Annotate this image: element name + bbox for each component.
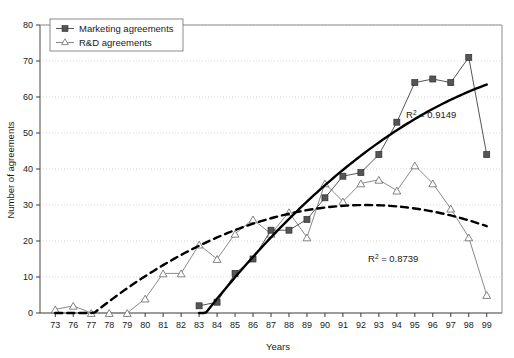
x-tick-label: 98 (464, 320, 474, 330)
data-point-marker (303, 234, 311, 241)
legend-label-marketing: Marketing agreements (79, 23, 174, 34)
x-tick-label: 91 (338, 320, 348, 330)
data-point-marker (394, 119, 400, 125)
x-axis-title: Years (266, 341, 290, 352)
data-point-marker (430, 76, 436, 82)
data-point-marker (465, 234, 473, 241)
x-tick-label: 99 (482, 320, 492, 330)
gridlines-group (40, 25, 502, 277)
annotation-rd-r2-rest: = 0.8739 (379, 253, 419, 264)
data-point-marker (448, 80, 454, 86)
data-point-marker (69, 302, 77, 309)
y-tick-label: 0 (28, 308, 33, 318)
legend-marketing-marker (62, 26, 68, 32)
x-tick-label: 77 (86, 320, 96, 330)
x-tick-label: 78 (104, 320, 114, 330)
x-tick-label: 80 (140, 320, 150, 330)
data-point-marker (141, 295, 149, 302)
y-tick-label: 80 (23, 20, 33, 30)
x-tick-label: 95 (410, 320, 420, 330)
x-tick-label: 93 (374, 320, 384, 330)
y-axis-ticks-group: 01020304050607080 (23, 20, 40, 318)
x-tick-label: 96 (428, 320, 438, 330)
x-axis-ticks-group: 7376777879808182838485868788899091929394… (50, 313, 491, 330)
data-point-marker (196, 303, 202, 309)
series-line (55, 165, 486, 313)
y-tick-label: 20 (23, 236, 33, 246)
data-point-marker (376, 152, 382, 158)
data-point-marker (340, 173, 346, 179)
data-point-marker (357, 180, 365, 187)
series-rd-agreements (51, 162, 490, 316)
x-tick-label: 81 (158, 320, 168, 330)
y-tick-label: 40 (23, 164, 33, 174)
x-tick-label: 79 (122, 320, 132, 330)
x-tick-label: 82 (176, 320, 186, 330)
chart-figure: 01020304050607080 7376777879808182838485… (0, 0, 514, 358)
x-tick-label: 94 (392, 320, 402, 330)
trendline-path (55, 205, 486, 313)
data-point-marker (358, 170, 364, 176)
data-point-marker (249, 216, 257, 223)
x-tick-label: 83 (194, 320, 204, 330)
data-point-marker (322, 195, 328, 201)
data-point-marker (466, 54, 472, 60)
x-tick-label: 97 (446, 320, 456, 330)
data-point-marker (286, 227, 292, 233)
data-point-marker (51, 306, 59, 313)
x-tick-label: 86 (248, 320, 258, 330)
x-tick-label: 85 (230, 320, 240, 330)
y-tick-label: 50 (23, 128, 33, 138)
x-tick-label: 87 (266, 320, 276, 330)
y-tick-label: 10 (23, 272, 33, 282)
chart-legend: Marketing agreements R&D agreements (50, 19, 183, 51)
x-tick-label: 90 (320, 320, 330, 330)
trendline-rd (55, 205, 486, 313)
data-point-marker (375, 176, 383, 183)
data-point-marker (412, 80, 418, 86)
data-point-marker (304, 216, 310, 222)
data-point-marker (268, 227, 274, 233)
annotation-marketing-r2-rest: = 0.9149 (417, 109, 457, 120)
data-point-marker (447, 205, 455, 212)
annotation-marketing-r2: R2 = 0.9149 (406, 109, 456, 121)
data-point-marker (411, 162, 419, 169)
data-point-marker (484, 152, 490, 158)
legend-label-rd: R&D agreements (79, 37, 152, 48)
y-axis-title: Number of agreements (5, 121, 16, 218)
agreements-line-chart: 01020304050607080 7376777879808182838485… (0, 0, 514, 358)
x-tick-label: 92 (356, 320, 366, 330)
y-tick-label: 70 (23, 56, 33, 66)
annotation-rd-r2: R2 = 0.8739 (368, 253, 418, 265)
data-point-marker (483, 292, 491, 299)
x-tick-label: 76 (68, 320, 78, 330)
x-tick-label: 89 (302, 320, 312, 330)
y-tick-label: 30 (23, 200, 33, 210)
x-tick-label: 88 (284, 320, 294, 330)
x-tick-label: 84 (212, 320, 222, 330)
data-point-marker (393, 187, 401, 194)
y-tick-label: 60 (23, 92, 33, 102)
x-tick-label: 73 (50, 320, 60, 330)
